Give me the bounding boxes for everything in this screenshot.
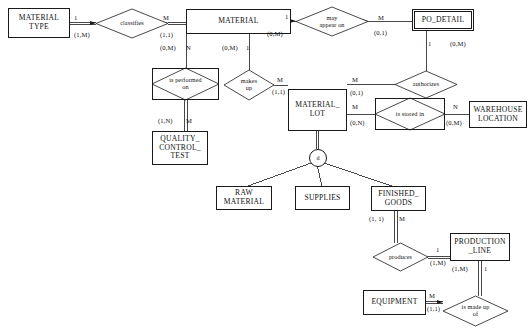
cardinality-fg-produces-part: (1, 1): [369, 215, 384, 222]
cardinality-pl-made-part: (1,M): [452, 265, 468, 272]
relationship-is-made-up-of[interactable]: is made up of: [443, 296, 508, 326]
connector-finished-goods-produces: [395, 211, 397, 243]
cardinality-mat-appear-conn: 1: [285, 13, 288, 20]
cardinality-mat-makes-conn: 1: [246, 44, 249, 51]
entity-supplies[interactable]: SUPPLIES: [295, 186, 350, 210]
relationship-classifies[interactable]: classifies: [96, 9, 168, 38]
cardinality-perf-qct-part: (1,N): [158, 117, 173, 124]
connector-disjoint-finished-goods: [324, 163, 392, 186]
cardinality-mt-classifies-part: (1,M): [74, 31, 90, 38]
entity-quality-control-test[interactable]: QUALITY_ CONTROL_ TEST: [152, 131, 208, 165]
cardinality-makes-lot-conn: M: [277, 76, 283, 83]
cardinality-mat-appear-part: (0,M): [267, 30, 283, 37]
entity-finished-goods-label: FINISHED_ GOODS: [378, 190, 419, 208]
cardinality-pl-made-conn: 1: [484, 265, 487, 272]
relationship-makes-up[interactable]: makes up: [224, 70, 274, 100]
cardinality-eq-made-conn: M: [429, 292, 435, 299]
cardinality-perf-qct-conn: M: [186, 117, 192, 124]
entity-warehouse-location[interactable]: WAREHOUSE LOCATION: [469, 101, 527, 128]
cardinality-po-auth-part: (0,M): [450, 40, 466, 47]
cardinality-mat-perf-conn: N: [186, 44, 191, 51]
relationship-authorizes-label: authorizes: [413, 81, 439, 88]
connector-disjoint-raw-material: [248, 163, 311, 186]
cardinality-produces-pl-part: (1,M): [430, 259, 446, 266]
connector-disjoint-supplies: [317, 165, 322, 186]
disjoint-specialization-circle[interactable]: d: [309, 149, 327, 167]
entity-warehouse-location-label: WAREHOUSE LOCATION: [473, 106, 522, 124]
cardinality-appear-po-part: (0,1): [374, 29, 387, 36]
entity-material-label: MATERIAL: [218, 17, 258, 26]
cardinality-makes-lot-part: (1,1): [272, 88, 285, 95]
cardinality-appear-po-conn: M: [378, 14, 384, 21]
entity-material-lot[interactable]: MATERIAL_ LOT: [288, 89, 347, 131]
relationship-authorizes[interactable]: authorizes: [395, 71, 457, 98]
entity-raw-material[interactable]: RAW MATERIAL: [216, 186, 272, 210]
connector-produces-production-line: [428, 256, 450, 258]
relationship-is-made-up-of-label: is made up of: [462, 304, 490, 318]
connector-is-performed-on-qct: [185, 100, 187, 131]
relationship-produces[interactable]: produces: [373, 243, 428, 271]
entity-material-type[interactable]: MATERIAL TYPE: [8, 8, 70, 38]
entity-production-line-label: PRODUCTION _LINE: [454, 238, 505, 256]
cardinality-classifies-mat-part: (1,1): [160, 31, 173, 38]
relationship-produces-label: produces: [389, 254, 412, 261]
connector-layer: [0, 0, 529, 335]
entity-po-detail[interactable]: PO_DETAIL: [412, 9, 474, 31]
entity-equipment[interactable]: EQUIPMENT: [363, 290, 426, 315]
cardinality-lot-stored-part: (0,N): [350, 119, 365, 126]
cardinality-classifies-mat-conn: M: [163, 14, 169, 21]
entity-finished-goods[interactable]: FINISHED_ GOODS: [371, 186, 426, 211]
entity-quality-control-test-label: QUALITY_ CONTROL_ TEST: [159, 135, 201, 162]
entity-material-lot-label: MATERIAL_ LOT: [295, 101, 339, 119]
relationship-classifies-label: classifies: [120, 20, 144, 27]
cardinality-mt-classifies-conn: 1: [74, 14, 77, 21]
entity-po-detail-label: PO_DETAIL: [422, 16, 465, 25]
entity-production-line[interactable]: PRODUCTION _LINE: [450, 233, 510, 261]
cardinality-mat-perf-part: (0,M): [160, 44, 176, 51]
cardinality-lot-auth-conn: M: [352, 76, 358, 83]
entity-equipment-label: EQUIPMENT: [371, 298, 417, 307]
er-diagram-canvas: MATERIAL TYPE MATERIAL PO_DETAIL QUALITY…: [0, 0, 529, 335]
relationship-is-performed-on-label: is performed on: [169, 77, 202, 91]
connector-classifies-material: [168, 22, 186, 24]
cardinality-stored-wh-conn: N: [453, 103, 458, 110]
entity-material-type-label: MATERIAL TYPE: [19, 14, 59, 32]
cardinality-lot-stored-conn: M: [352, 103, 358, 110]
connector-production-line-is-made-up-of: [479, 261, 481, 296]
cardinality-mat-makes-part: (0,M): [222, 44, 238, 51]
cardinality-lot-auth-part: (0,1): [350, 89, 363, 96]
diamond-shape-layer: [0, 0, 529, 335]
cardinality-stored-wh-part: (0,M): [446, 119, 462, 126]
cardinality-eq-made-part: (1,1): [427, 305, 440, 312]
relationship-is-stored-in-label: is stored in: [396, 111, 424, 118]
relationship-is-stored-in[interactable]: is stored in: [375, 98, 445, 130]
cardinality-produces-pl-conn: 1: [436, 246, 439, 253]
relationship-makes-up-label: makes up: [241, 78, 257, 92]
relationship-may-appear-on-label: may appear on: [319, 15, 344, 29]
relationship-is-performed-on[interactable]: is performed on: [152, 68, 219, 100]
disjoint-symbol: d: [317, 155, 320, 161]
entity-raw-material-label: RAW MATERIAL: [224, 189, 264, 207]
cardinality-fg-produces-conn: M: [399, 215, 405, 222]
relationship-may-appear-on[interactable]: may appear on: [296, 7, 368, 36]
connector-material-lot-disjoint: [316, 131, 318, 149]
cardinality-po-auth-conn: 1: [428, 40, 431, 47]
entity-supplies-label: SUPPLIES: [304, 194, 340, 203]
